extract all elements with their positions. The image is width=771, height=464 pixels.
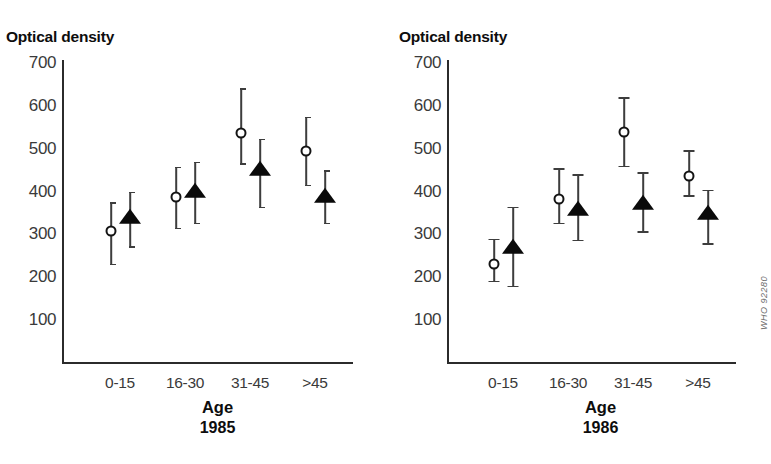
error-bar-cap	[324, 170, 330, 172]
error-bar-cap	[638, 231, 649, 233]
error-bar-cap	[129, 192, 135, 194]
data-point-filled-triangle	[184, 182, 206, 197]
error-bar-cap	[573, 174, 584, 176]
error-bar-cap	[703, 243, 714, 245]
data-point-filled-triangle	[632, 194, 654, 209]
error-bar-cap	[129, 246, 135, 248]
error-bar-cap	[703, 190, 714, 192]
error-bar-cap	[324, 223, 330, 225]
data-point-filled-triangle	[249, 161, 271, 176]
data-point-filled-triangle	[314, 188, 336, 203]
chart-panel-1986: Optical density 7006005004003002001000-1…	[385, 0, 770, 464]
figure-credit: WHO 92280	[759, 276, 769, 330]
error-bar-cap	[508, 207, 519, 209]
error-bar-cap	[508, 286, 519, 288]
error-bar-cap	[573, 240, 584, 242]
error-bar-cap	[194, 162, 200, 164]
error-bar-cap	[259, 139, 265, 141]
error-bar-cap	[638, 172, 649, 174]
data-point-filled-triangle	[697, 205, 719, 220]
data-point-filled-triangle	[567, 201, 589, 216]
error-bar-cap	[194, 223, 200, 225]
chart-panel-1985: Optical density 7006005004003002001000-1…	[0, 0, 385, 464]
data-point-filled-triangle	[502, 239, 524, 254]
plot-area-1986: 7006005004003002001000-1516-3031-45>45Ag…	[385, 0, 771, 464]
data-point-filled-triangle	[119, 209, 141, 224]
figure-root: Optical density 7006005004003002001000-1…	[0, 0, 771, 464]
plot-area-1985: 7006005004003002001000-1516-3031-45>45Ag…	[0, 0, 385, 464]
series-filled-triangle	[385, 0, 771, 464]
error-bar-cap	[259, 207, 265, 209]
series-filled-triangle	[0, 0, 385, 464]
